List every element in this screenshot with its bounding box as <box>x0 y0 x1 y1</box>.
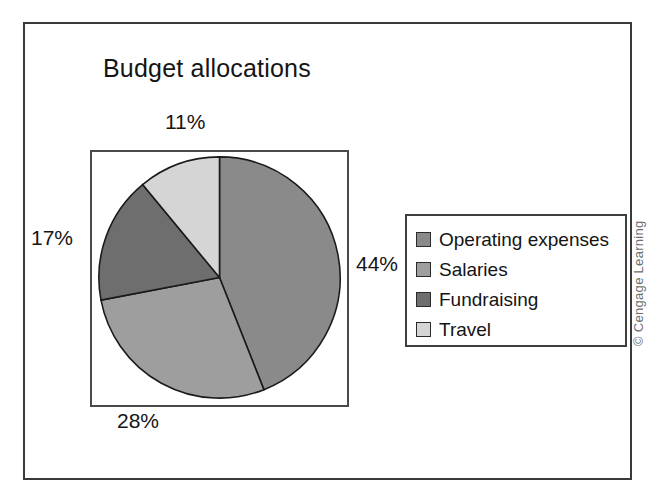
legend-label: Travel <box>439 320 491 339</box>
legend-item-salaries: Salaries <box>416 255 625 284</box>
legend-item-fundraising: Fundraising <box>416 285 625 314</box>
legend-swatch-icon <box>416 292 431 307</box>
figure-frame: Budget allocations 11% 17% 28% 44% Opera… <box>23 22 632 480</box>
legend-label: Fundraising <box>439 290 538 309</box>
copyright-credit: © Cengage Learning <box>631 220 646 346</box>
pie-slice-group <box>99 157 340 398</box>
pie-plot-area <box>90 150 349 407</box>
legend-label: Operating expenses <box>439 230 609 249</box>
slice-label-salaries: 28% <box>117 409 159 433</box>
chart-legend: Operating expenses Salaries Fundraising … <box>405 214 627 347</box>
legend-swatch-icon <box>416 232 431 247</box>
legend-swatch-icon <box>416 262 431 277</box>
legend-item-travel: Travel <box>416 315 625 344</box>
legend-item-operating-expenses: Operating expenses <box>416 225 625 254</box>
slice-label-fundraising: 17% <box>31 226 73 250</box>
legend-label: Salaries <box>439 260 508 279</box>
pie-chart-svg <box>92 152 347 405</box>
legend-swatch-icon <box>416 322 431 337</box>
chart-title: Budget allocations <box>103 54 311 83</box>
slice-label-operating-expenses: 44% <box>356 252 398 276</box>
slice-label-travel: 11% <box>165 110 205 134</box>
